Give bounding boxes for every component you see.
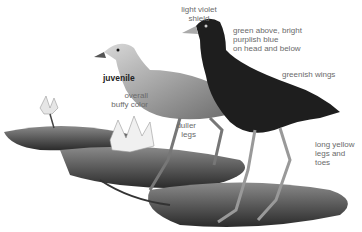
label-line: shield: [176, 14, 222, 23]
label-shield: light violet shield: [176, 5, 222, 23]
label-line: toes: [315, 158, 362, 167]
label-wings: greenish wings: [282, 70, 335, 79]
label-juvenile: juvenile: [103, 74, 135, 83]
label-line: on head and below: [233, 44, 323, 53]
label-line: duller: [166, 121, 196, 130]
label-duller-legs: duller legs: [166, 121, 196, 139]
label-line: light violet: [176, 5, 222, 14]
label-line: buffy color: [100, 100, 148, 109]
label-juvenile-color: overall buffy color: [100, 91, 148, 109]
bird-illustration: light violet shield green above, bright …: [0, 0, 362, 232]
lily-pads: [4, 126, 348, 227]
label-line: legs and: [315, 149, 362, 158]
label-line: legs: [166, 130, 196, 139]
label-line: long yellow: [315, 140, 362, 149]
label-legs: long yellow legs and toes: [315, 140, 362, 167]
label-line: purplish blue: [233, 35, 323, 44]
label-line: green above, bright: [233, 26, 323, 35]
label-head-color: green above, bright purplish blue on hea…: [233, 26, 323, 53]
label-line: overall: [100, 91, 148, 100]
